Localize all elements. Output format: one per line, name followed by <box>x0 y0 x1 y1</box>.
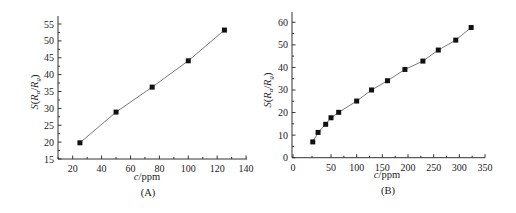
y-tick-label: 0 <box>283 152 288 163</box>
y-tick-label: 45 <box>44 52 54 63</box>
panel-label: (A) <box>141 187 156 199</box>
y-tick-label: 40 <box>278 62 288 73</box>
y-tick-label: 60 <box>278 17 288 28</box>
y-tick-label: 50 <box>44 35 54 46</box>
x-tick-label: 140 <box>239 163 254 174</box>
y-tick-label: 15 <box>44 154 54 165</box>
x-tick-label: 120 <box>210 163 225 174</box>
y-tick-label: 30 <box>278 84 288 95</box>
data-point-marker <box>436 48 441 53</box>
y-tick-label: 20 <box>278 107 288 118</box>
x-tick-label: 200 <box>401 162 416 173</box>
data-point-marker <box>354 99 359 104</box>
y-axis-title: S(Ra/Rg) <box>262 72 275 108</box>
y-tick-label: 40 <box>44 69 54 80</box>
data-point-marker <box>316 130 321 135</box>
y-axis-title: S(Ra/Rg) <box>29 74 42 110</box>
data-point-marker <box>150 85 155 90</box>
data-point-marker <box>222 28 227 33</box>
chart-panel-a: 20406080100120140152025303540455055S(Ra/… <box>29 16 254 199</box>
data-point-marker <box>323 122 328 127</box>
data-point-marker <box>77 140 82 145</box>
data-point-marker <box>186 58 191 63</box>
data-point-marker <box>369 87 374 92</box>
data-point-marker <box>114 110 119 115</box>
figure: 20406080100120140152025303540455055S(Ra/… <box>0 0 516 213</box>
data-point-marker <box>469 25 474 30</box>
x-tick-label: 100 <box>181 163 196 174</box>
y-tick-label: 35 <box>44 86 54 97</box>
chart-panel-b: 0501001502002503003500102030405060S(Ra/R… <box>262 12 493 197</box>
x-axis-title: c/ppm <box>374 169 400 180</box>
x-tick-label: 250 <box>426 162 441 173</box>
x-tick-label: 300 <box>452 162 467 173</box>
data-point-marker <box>420 59 425 64</box>
y-tick-label: 20 <box>44 137 54 148</box>
x-tick-label: 40 <box>97 163 107 174</box>
x-axis-title: c/ppm <box>134 171 160 182</box>
y-tick-label: 50 <box>278 39 288 50</box>
x-tick-label: 0 <box>291 162 296 173</box>
y-tick-label: 55 <box>44 19 54 30</box>
data-point-marker <box>402 67 407 72</box>
data-point-marker <box>329 115 334 120</box>
data-point-marker <box>385 78 390 83</box>
data-point-marker <box>336 110 341 115</box>
series-line <box>313 27 471 141</box>
y-tick-label: 10 <box>278 130 288 141</box>
data-point-marker <box>453 38 458 43</box>
x-tick-label: 350 <box>478 162 493 173</box>
panel-label: (B) <box>381 185 396 197</box>
y-tick-label: 30 <box>44 103 54 114</box>
x-tick-label: 100 <box>349 162 364 173</box>
y-tick-label: 25 <box>44 120 54 131</box>
data-point-marker <box>310 139 315 144</box>
x-tick-label: 20 <box>68 163 78 174</box>
x-tick-label: 50 <box>326 162 336 173</box>
